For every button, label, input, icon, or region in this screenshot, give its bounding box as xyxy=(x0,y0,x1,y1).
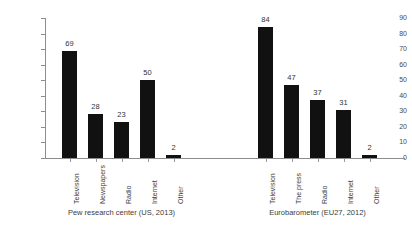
bar xyxy=(310,100,325,158)
x-tick xyxy=(148,159,149,162)
bar xyxy=(140,80,155,158)
x-tick xyxy=(174,159,175,162)
bar xyxy=(166,155,181,158)
x-tick xyxy=(292,159,293,162)
x-axis-category-label: Newspapers xyxy=(99,165,106,204)
x-axis-category-label: Television xyxy=(73,173,80,204)
y-tick-label: 90 xyxy=(385,14,407,21)
bar-value-label: 2 xyxy=(159,144,189,152)
y-tick-label: 50 xyxy=(385,76,407,83)
group-caption-pew: Pew research center (US, 2013) xyxy=(22,208,222,217)
y-tick xyxy=(41,142,45,143)
y-tick-label: 10 xyxy=(385,138,407,145)
y-tick xyxy=(41,18,45,19)
bar-value-label: 31 xyxy=(329,99,359,107)
x-axis-category-label: Radio xyxy=(321,186,328,204)
bar xyxy=(114,122,129,158)
bar xyxy=(62,51,77,158)
bar xyxy=(336,110,351,158)
x-tick xyxy=(370,159,371,162)
y-tick-label: 70 xyxy=(385,45,407,52)
y-tick xyxy=(41,96,45,97)
bar-value-label: 69 xyxy=(55,40,85,48)
x-axis-category-label: Television xyxy=(269,173,276,204)
y-tick xyxy=(41,34,45,35)
bar-value-label: 47 xyxy=(277,74,307,82)
x-tick xyxy=(96,159,97,162)
y-tick-label: 20 xyxy=(385,123,407,130)
y-tick-label: 60 xyxy=(385,61,407,68)
y-tick xyxy=(41,49,45,50)
y-tick xyxy=(41,111,45,112)
bar xyxy=(258,27,273,158)
bar-value-label: 37 xyxy=(303,89,333,97)
bar-value-label: 2 xyxy=(355,144,385,152)
x-axis-category-label: Internet xyxy=(347,180,354,204)
bar-value-label: 84 xyxy=(251,16,281,24)
x-axis-category-label: The press xyxy=(295,173,302,204)
y-tick xyxy=(41,127,45,128)
x-tick xyxy=(318,159,319,162)
x-axis-category-label: Other xyxy=(373,186,380,204)
bar-value-label: 50 xyxy=(133,69,163,77)
y-axis-line xyxy=(45,18,46,158)
bar-value-label: 23 xyxy=(107,111,137,119)
bar xyxy=(284,85,299,158)
y-tick-label: 30 xyxy=(385,107,407,114)
x-tick xyxy=(70,159,71,162)
y-tick xyxy=(41,65,45,66)
y-tick-label: 40 xyxy=(385,92,407,99)
x-tick xyxy=(266,159,267,162)
x-tick xyxy=(344,159,345,162)
x-axis-category-label: Internet xyxy=(151,180,158,204)
group-caption-eurobarometer: Eurobarometer (EU27, 2012) xyxy=(218,208,412,217)
bar xyxy=(362,155,377,158)
x-axis-category-label: Radio xyxy=(125,186,132,204)
y-tick-label: 80 xyxy=(385,30,407,37)
x-axis-baseline xyxy=(45,158,405,159)
y-tick xyxy=(41,80,45,81)
x-axis-category-label: Other xyxy=(177,186,184,204)
bar xyxy=(88,114,103,158)
x-tick xyxy=(122,159,123,162)
